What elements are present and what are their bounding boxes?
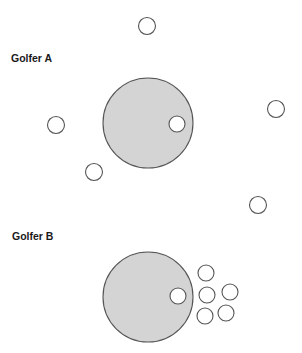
shot-ball-b: [199, 287, 215, 303]
shot-ball-b: [198, 265, 214, 281]
ball-on-target-a: [169, 116, 185, 132]
shot-ball-a: [250, 197, 267, 214]
shot-ball-a: [268, 101, 285, 118]
golfer-b-label: Golfer B: [12, 230, 53, 242]
shot-ball-b: [197, 308, 213, 324]
shot-ball-b: [222, 284, 238, 300]
shot-ball-a: [86, 164, 103, 181]
shot-ball-a: [48, 117, 65, 134]
shot-ball-b: [218, 305, 234, 321]
golfer-accuracy-diagram: Golfer A Golfer B: [0, 0, 302, 353]
ball-on-target-b: [170, 288, 186, 304]
shot-ball-a: [139, 18, 156, 35]
golfer-a-label: Golfer A: [11, 52, 52, 64]
